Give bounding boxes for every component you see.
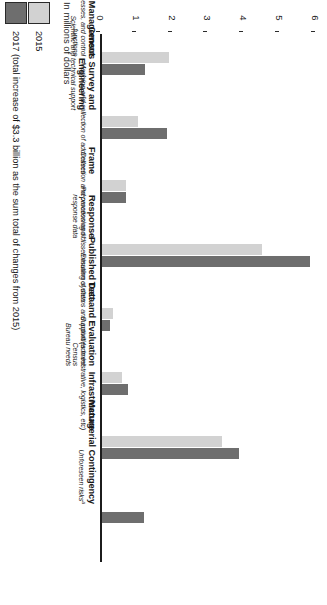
footnote-marker: a (81, 501, 87, 504)
tick-mark-4 (239, 31, 243, 32)
bar-2015-published-data[interactable] (102, 308, 113, 319)
category-subtitle-text: Unforeseen risks (77, 450, 85, 502)
bar-2017-response[interactable] (102, 256, 310, 267)
legend-item-2015[interactable]: 2015 (28, 2, 50, 51)
tick-label-5: 5 (274, 8, 285, 28)
bar-2015-frame[interactable] (102, 180, 125, 191)
bar-2015-infrastructure[interactable] (102, 436, 222, 447)
category-subtitle: Unforeseen risksa (76, 378, 86, 504)
tick-label-4: 4 (238, 8, 249, 28)
tick-mark-6 (311, 31, 315, 32)
tick-mark-1 (132, 31, 136, 32)
bar-2017-managerial-contingency[interactable] (102, 512, 143, 523)
value-axis-title: In millions of dollars (62, 2, 73, 84)
bar-2015-test-and-evaluation[interactable] (102, 372, 122, 383)
bar-2017-infrastructure[interactable] (102, 448, 238, 459)
category-label-managerial-contingency: Managerial Contingency Unforeseen risksa (76, 378, 96, 504)
category-title: Managerial Contingency (86, 378, 96, 504)
plot-area (100, 34, 315, 562)
bar-2017-frame[interactable] (102, 192, 125, 203)
legend-swatch-2017 (5, 2, 27, 24)
tick-label-6: 6 (310, 8, 321, 28)
legend-label-2015: 2015 (34, 31, 44, 51)
bar-2017-test-and-evaluation[interactable] (102, 384, 128, 395)
tick-mark-2 (168, 31, 172, 32)
category-subtitle-line-2: Bureau needs (63, 250, 71, 366)
chart-figure: 0 1 2 3 4 5 6 Program Management Policie… (0, 0, 327, 605)
rotated-figure-wrapper: 0 1 2 3 4 5 6 Program Management Policie… (0, 0, 327, 605)
bar-2017-census-survey-and-engineering[interactable] (102, 128, 167, 139)
legend-label-2017: 2017 (total increase of $3.3 billion as … (11, 31, 21, 330)
tick-label-3: 3 (203, 8, 214, 28)
tick-mark-3 (204, 31, 208, 32)
bar-2015-program-management[interactable] (102, 52, 168, 63)
tick-label-1: 1 (131, 8, 142, 28)
bar-2015-response[interactable] (102, 244, 262, 255)
bar-2017-program-management[interactable] (102, 64, 145, 75)
bar-2017-published-data[interactable] (102, 320, 110, 331)
category-axis-line (100, 34, 102, 562)
legend-swatch-2015 (28, 2, 50, 24)
tick-mark-5 (275, 31, 279, 32)
tick-label-2: 2 (167, 8, 178, 28)
bar-2015-census-survey-and-engineering[interactable] (102, 116, 138, 127)
legend-item-2017[interactable]: 2017 (total increase of $3.3 billion as … (5, 2, 27, 330)
